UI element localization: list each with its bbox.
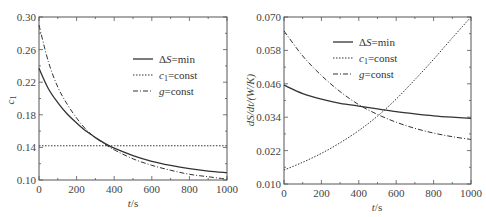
y-tick-label: 0.022 bbox=[256, 145, 281, 157]
x-tick-label: 600 bbox=[144, 183, 161, 195]
x-tick-label: 0 bbox=[281, 187, 287, 199]
left-y-tick-labels: 0.100.140.180.220.260.30 bbox=[17, 11, 37, 186]
legend-label: c1=const bbox=[159, 69, 197, 83]
x-tick-label: 800 bbox=[181, 183, 198, 195]
y-tick-label: 0.30 bbox=[17, 11, 37, 23]
x-tick-label: 200 bbox=[68, 183, 85, 195]
series-line-solid bbox=[284, 85, 471, 118]
legend-label: ΔS=min bbox=[159, 53, 195, 65]
y-tick-label: 0.070 bbox=[256, 11, 281, 23]
legend-label: g=const bbox=[359, 68, 394, 80]
right-legend: ΔS=minc1=constg=const bbox=[333, 36, 397, 80]
left-chart: 0.100.140.180.220.260.30 020040060080010… bbox=[4, 11, 239, 209]
y-tick-label: 0.034 bbox=[256, 111, 281, 123]
y-tick-label: 0.10 bbox=[17, 174, 37, 186]
y-tick-label: 0.18 bbox=[17, 109, 37, 121]
legend-label: ΔS=min bbox=[359, 36, 395, 48]
left-y-axis-label: c1 bbox=[4, 96, 18, 105]
x-tick-label: 600 bbox=[388, 187, 405, 199]
left-x-axis-label: t/s bbox=[128, 197, 138, 209]
x-tick-label: 400 bbox=[351, 187, 368, 199]
x-tick-label: 1000 bbox=[460, 187, 483, 199]
right-chart: 0.0100.0220.0340.0460.0580.070 020040060… bbox=[244, 11, 483, 213]
legend-label: c1=const bbox=[359, 52, 397, 66]
x-tick-label: 400 bbox=[106, 183, 123, 195]
left-legend: ΔS=minc1=constg=const bbox=[133, 53, 197, 97]
y-tick-label: 0.26 bbox=[17, 44, 37, 56]
y-tick-label: 0.14 bbox=[17, 141, 37, 153]
right-x-tick-labels: 02004006008001000 bbox=[281, 187, 482, 199]
right-x-axis-label: t/s bbox=[372, 201, 382, 213]
right-y-tick-labels: 0.0100.0220.0340.0460.0580.070 bbox=[256, 11, 281, 190]
y-tick-label: 0.046 bbox=[256, 78, 281, 90]
figure: 0.100.140.180.220.260.30 020040060080010… bbox=[0, 0, 486, 217]
y-tick-label: 0.010 bbox=[256, 178, 281, 190]
legend-label: g=const bbox=[159, 85, 194, 97]
x-tick-label: 800 bbox=[425, 187, 442, 199]
x-tick-label: 200 bbox=[313, 187, 330, 199]
series-line-solid bbox=[39, 68, 227, 172]
left-x-tick-labels: 02004006008001000 bbox=[36, 183, 238, 195]
x-tick-label: 0 bbox=[36, 183, 42, 195]
y-tick-label: 0.058 bbox=[256, 44, 281, 56]
right-y-axis-label: dS/dt/(W/K) bbox=[244, 73, 257, 126]
left-lines bbox=[39, 25, 227, 179]
x-tick-label: 1000 bbox=[216, 183, 239, 195]
y-tick-label: 0.22 bbox=[17, 76, 36, 88]
